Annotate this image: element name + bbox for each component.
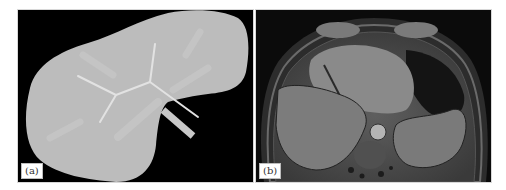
panel-label-b: (b): [259, 163, 281, 179]
panel-label-a: (a): [21, 163, 43, 179]
panel-a-liver-phantom: (a): [18, 10, 253, 182]
liver-phantom-illustration: [18, 10, 253, 182]
mri-axial-image: [256, 10, 491, 182]
panel-b-mri-slice: (b): [256, 10, 491, 182]
figure: (a): [0, 0, 506, 190]
